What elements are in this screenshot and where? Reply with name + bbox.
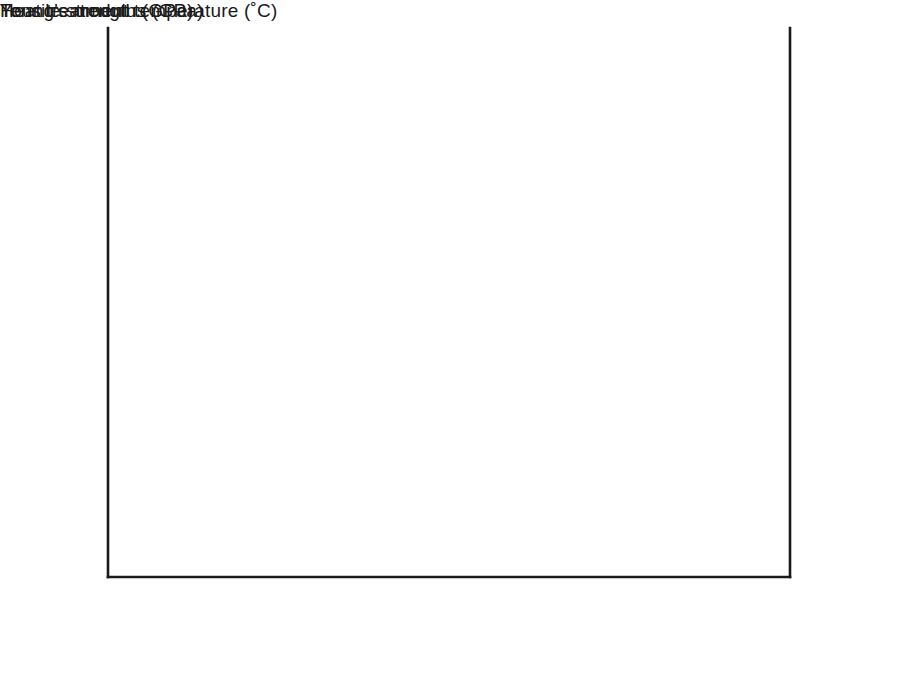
chart-figure: Tensile strength (GPa) Young's modulus (… (0, 0, 902, 673)
chart-plot-area (0, 0, 902, 673)
axes (108, 28, 790, 577)
x-axis-title: Heat treatment temperature (˚C) (0, 0, 278, 22)
